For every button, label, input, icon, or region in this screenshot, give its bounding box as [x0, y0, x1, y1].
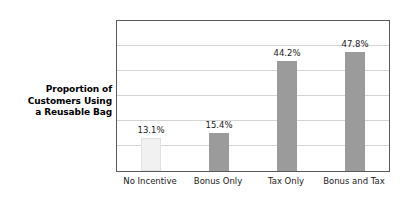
bars-group: 13.1%15.4%44.2%47.8% — [117, 21, 389, 171]
plot-area: 13.1%15.4%44.2%47.8% — [116, 20, 390, 172]
y-axis-title-line-1: Proportion of — [8, 84, 112, 96]
x-axis-category-labels: No IncentiveBonus OnlyTax OnlyBonus and … — [116, 176, 390, 196]
bar-value-label: 15.4% — [205, 120, 232, 130]
bar-slot: 44.2% — [253, 21, 321, 171]
x-label-tax-only: Tax Only — [268, 176, 304, 186]
x-label-bonus-and-tax: Bonus and Tax — [323, 176, 385, 186]
bar-chart-figure: Proportion of Customers Using a Reusable… — [0, 0, 409, 212]
y-axis-title-line-2: Customers Using — [8, 96, 112, 108]
bar-value-label: 13.1% — [137, 125, 164, 135]
bar-slot: 13.1% — [117, 21, 185, 171]
bar-bonus-and-tax[interactable] — [345, 52, 365, 172]
y-axis-title: Proportion of Customers Using a Reusable… — [8, 84, 112, 119]
x-label-bonus-only: Bonus Only — [194, 176, 242, 186]
bar-no-incentive[interactable] — [141, 138, 161, 171]
bar-bonus-only[interactable] — [209, 133, 229, 172]
bar-value-label: 47.8% — [341, 39, 368, 49]
bar-value-label: 44.2% — [273, 48, 300, 58]
bar-slot: 47.8% — [321, 21, 389, 171]
x-label-no-incentive: No Incentive — [123, 176, 176, 186]
bar-slot: 15.4% — [185, 21, 253, 171]
y-axis-title-line-3: a Reusable Bag — [8, 107, 112, 119]
bar-tax-only[interactable] — [277, 61, 297, 172]
